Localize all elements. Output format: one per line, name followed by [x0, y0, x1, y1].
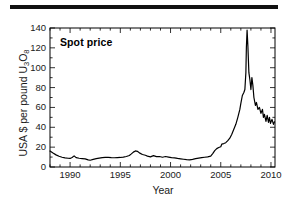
x-axis-tick-labels: 19901995200020052010 [0, 0, 291, 202]
y-axis-title-prefix: USA $ per pound U [17, 66, 29, 156]
x-tick-label-1990: 1990 [50, 170, 90, 180]
y-axis-title-mid-O: O [17, 54, 29, 62]
plot-area-wrapper: 020406080100120140 19901995200020052010 … [0, 0, 291, 202]
y-axis-title-sub-8: 8 [22, 50, 31, 54]
x-tick-label-2000: 2000 [151, 170, 191, 180]
y-axis-title: USA $ per pound U3O8 [17, 28, 29, 178]
x-tick-label-1995: 1995 [100, 170, 140, 180]
figure-container: 020406080100120140 19901995200020052010 … [0, 0, 291, 202]
legend-label-spot-price: Spot price [60, 36, 112, 48]
x-tick-label-2005: 2005 [201, 170, 241, 180]
x-axis-title: Year [50, 184, 276, 196]
x-tick-label-2010: 2010 [251, 170, 291, 180]
y-axis-title-sub-3: 3 [22, 62, 31, 66]
